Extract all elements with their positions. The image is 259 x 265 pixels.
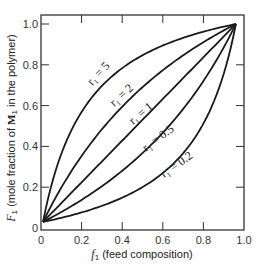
x-tick-label: 0 [38,234,44,246]
x-tick-label: 0.2 [74,234,89,246]
curve-label-r1-5: r₁ = 5 [84,59,113,88]
curve-label-r1-0_5: r₁ = 0.5 [139,122,176,155]
y-tick-label: 0.6 [23,100,38,112]
x-axis-label: f1 (feed composition) [91,247,192,262]
curve-label-r1-1: r₁ = 1 [126,99,156,127]
x-tick-label: 0.6 [155,234,170,246]
y-tick-label: 1.0 [23,18,38,30]
x-tick-label: 0.4 [115,234,130,246]
y-tick-label: 0 [32,222,38,234]
y-tick-label: 0.4 [23,140,38,152]
y-tick-label: 0.8 [23,59,38,71]
tick-labels: 00.20.40.60.81.000.20.40.60.81.0 [23,18,252,246]
y-axis-label: F1 (mole fraction of M1 in the polymer) [4,34,19,222]
curve-label-r1-0_2: r₁ = 0.2 [158,148,195,180]
y-tick-label: 0.2 [23,181,38,193]
curve-label-r1-2: r₁ = 2 [107,81,136,109]
x-tick-label: 1.0 [236,234,251,246]
x-tick-label: 0.8 [196,234,211,246]
copolymer-composition-chart: 00.20.40.60.81.000.20.40.60.81.0 r₁ = 5r… [0,0,259,265]
